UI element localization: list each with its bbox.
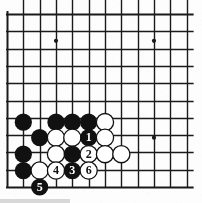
go-board-canvas[interactable] — [0, 0, 202, 203]
go-board-diagram — [0, 0, 202, 203]
footer-divider — [0, 199, 70, 203]
